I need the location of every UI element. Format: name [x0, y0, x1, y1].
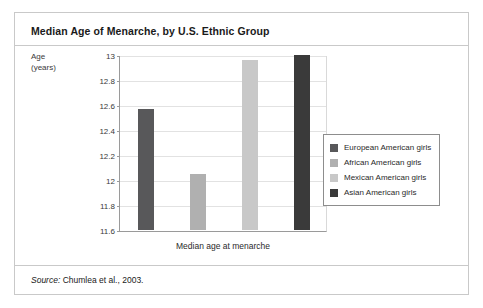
y-tick-mark	[117, 231, 120, 232]
legend-swatch-icon	[330, 144, 338, 152]
figure-frame: Median Age of Menarche, by U.S. Ethnic G…	[14, 12, 469, 295]
y-tick-label: 12	[106, 177, 115, 186]
bar-4	[294, 55, 310, 230]
source-citation: Chumlea et al., 2003.	[63, 275, 144, 285]
source-label: Source:	[31, 275, 60, 285]
y-axis-caption: Age (years)	[31, 51, 56, 73]
plot-area	[119, 56, 327, 232]
title-divider	[15, 45, 468, 46]
chart-legend: European American girlsAfrican American …	[323, 134, 440, 206]
legend-swatch-icon	[330, 174, 338, 182]
y-tick-label: 11.6	[100, 227, 115, 236]
bar-1	[138, 109, 154, 230]
source-note: Source: Chumlea et al., 2003.	[31, 275, 143, 285]
y-tick-mark	[117, 106, 120, 107]
y-tick-mark	[117, 156, 120, 157]
legend-item: Mexican American girls	[330, 170, 431, 185]
y-tick-mark	[117, 56, 120, 57]
legend-item: African American girls	[330, 155, 431, 170]
y-tick-label: 12.2	[99, 152, 115, 161]
y-tick-mark	[117, 131, 120, 132]
plot-wrapper	[119, 56, 327, 232]
legend-label: African American girls	[344, 158, 421, 167]
y-tick-label: 12.8	[99, 77, 115, 86]
legend-item: European American girls	[330, 140, 431, 155]
y-tick-mark	[117, 206, 120, 207]
y-axis-caption-line1: Age	[31, 51, 56, 62]
legend-swatch-icon	[330, 189, 338, 197]
legend-swatch-icon	[330, 159, 338, 167]
y-tick-mark	[117, 181, 120, 182]
legend-label: European American girls	[344, 143, 431, 152]
page-title: Median Age of Menarche, by U.S. Ethnic G…	[31, 25, 270, 37]
y-tick-label: 13	[106, 52, 115, 61]
y-axis-tick-labels: 11.611.81212.212.412.612.813	[71, 56, 115, 232]
source-divider	[15, 265, 468, 266]
legend-item: Asian American girls	[330, 185, 431, 200]
legend-label: Mexican American girls	[344, 173, 426, 182]
y-tick-label: 12.4	[99, 127, 115, 136]
y-axis-caption-line2: (years)	[31, 62, 56, 73]
legend-label: Asian American girls	[344, 188, 416, 197]
y-tick-mark	[117, 81, 120, 82]
y-tick-label: 12.6	[99, 102, 115, 111]
bar-2	[190, 174, 206, 230]
y-tick-label: 11.8	[100, 202, 115, 211]
bar-3	[242, 60, 258, 230]
x-axis-title: Median age at menarche	[119, 241, 327, 251]
